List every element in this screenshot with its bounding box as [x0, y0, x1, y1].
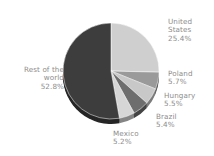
slice-value-poland: 5.7%: [168, 78, 193, 86]
slice-value-united-states: 25.4%: [168, 35, 192, 43]
pie-slice-united-states: [111, 23, 159, 72]
slice-label-hungary: Hungary 5.5%: [164, 92, 195, 109]
slice-value-brazil: 5.4%: [156, 121, 177, 129]
slice-label-brazil: Brazil 5.4%: [156, 113, 177, 130]
pie-chart: United States 25.4% Poland 5.7% Hungary …: [0, 0, 214, 156]
slice-value-mexico: 5.2%: [113, 138, 139, 146]
slice-label-united-states: United States 25.4%: [168, 18, 192, 43]
slice-value-rest-of-the-world: 52.8%: [6, 83, 64, 91]
slice-label-rest-of-the-world: Rest of the world 52.8%: [6, 66, 64, 91]
slice-label-poland: Poland 5.7%: [168, 70, 193, 87]
slice-value-hungary: 5.5%: [164, 100, 195, 108]
pie-slice-rest-of-the-world: [63, 23, 119, 119]
slice-label-mexico: Mexico 5.2%: [113, 130, 139, 147]
